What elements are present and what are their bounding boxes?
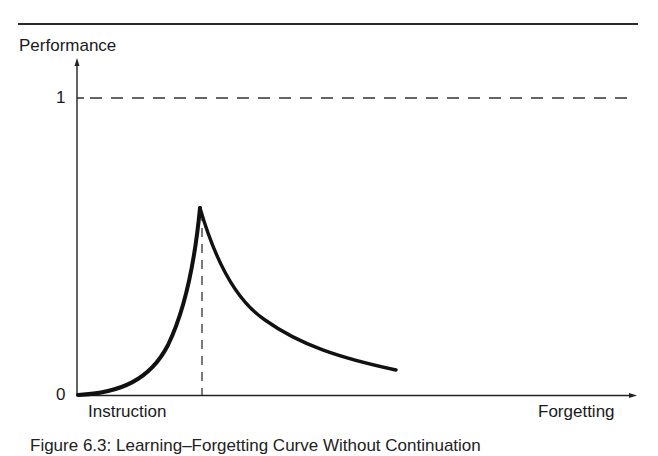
- forgetting-curve: [200, 208, 396, 370]
- y-axis-arrow-icon: [75, 58, 80, 66]
- learning-curve: [78, 208, 200, 395]
- figure-caption: Figure 6.3: Learning–Forgetting Curve Wi…: [30, 436, 481, 456]
- x-axis-arrow-icon: [629, 393, 637, 398]
